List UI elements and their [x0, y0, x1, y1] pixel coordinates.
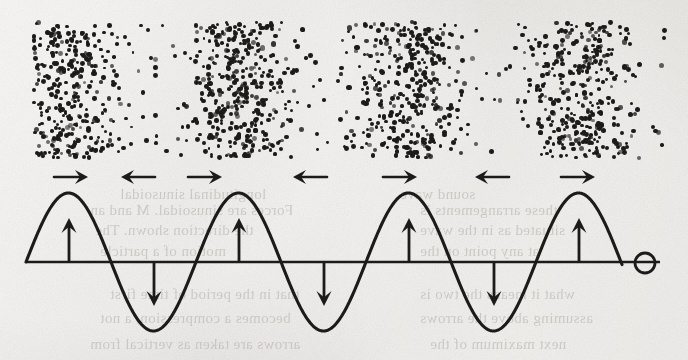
particle-dot [208, 112, 213, 117]
particle-dot [33, 51, 38, 56]
particle-dot [593, 37, 597, 41]
particle-dot [226, 56, 229, 59]
particle-dot [244, 91, 249, 96]
particle-dot [232, 152, 237, 157]
particle-dot [240, 84, 244, 88]
particle-dot [233, 100, 236, 103]
paper-texture [0, 0, 688, 360]
particle-dot [591, 22, 594, 25]
particle-dot [583, 116, 588, 121]
particle-dot [421, 72, 425, 76]
particle-dot [544, 108, 547, 111]
particle-dot [402, 145, 406, 149]
particle-dot [112, 120, 115, 123]
particle-dot [41, 155, 44, 158]
particle-dot [94, 141, 98, 145]
particle-dot [227, 67, 231, 71]
particle-dot [409, 62, 414, 67]
particle-dot [565, 34, 570, 39]
particle-dot [43, 75, 46, 78]
particle-dot [459, 151, 463, 155]
particle-dot [112, 55, 116, 59]
particle-dot [475, 29, 478, 32]
particle-dot [260, 98, 265, 103]
particle-dot [540, 153, 543, 156]
particle-dot [388, 65, 392, 69]
particle-dot [231, 74, 236, 79]
particle-dot [378, 87, 383, 92]
particle-dot [286, 67, 289, 70]
particle-dot [65, 39, 69, 43]
particle-dot [210, 114, 214, 118]
particle-dot [598, 155, 601, 158]
particle-dot [594, 31, 597, 34]
particle-dot [458, 99, 462, 103]
particle-dot [350, 140, 353, 143]
particle-dot [288, 118, 293, 123]
particle-dot [614, 141, 619, 146]
particle-dot [394, 145, 399, 150]
particle-dot [66, 31, 71, 36]
particle-dot [59, 70, 64, 75]
particle-dot [590, 136, 593, 139]
particle-dot [431, 46, 434, 49]
particle-dot [584, 55, 589, 60]
particle-dot [435, 96, 439, 100]
particle-dot [209, 89, 213, 93]
particle-dot [217, 155, 222, 160]
particle-dot [556, 98, 561, 103]
particle-dot [399, 138, 402, 141]
particle-dot [418, 68, 422, 72]
particle-dot [240, 30, 244, 34]
particle-dot [207, 77, 211, 81]
particle-dot [383, 37, 386, 40]
particle-dot [93, 148, 98, 153]
particle-dot [366, 86, 370, 90]
particle-dot [376, 60, 380, 64]
particle-dot [61, 66, 64, 69]
particle-dot [475, 87, 478, 90]
particle-dot [243, 82, 247, 86]
particle-dot [260, 74, 264, 78]
particle-dot [93, 116, 98, 121]
particle-dot [161, 24, 164, 27]
particle-dot [81, 53, 86, 58]
particle-dot [608, 20, 613, 25]
particle-dot [577, 141, 581, 145]
particle-dot [203, 149, 208, 154]
particle-dot [111, 80, 115, 84]
particle-dot [396, 38, 400, 42]
particle-dot [388, 46, 391, 49]
particle-dot [409, 30, 414, 35]
particle-dot [141, 90, 145, 94]
particle-dot [91, 71, 96, 76]
particle-dot [41, 79, 46, 84]
particle-dot [227, 75, 230, 78]
particle-dot [216, 33, 221, 38]
particle-dot [436, 42, 439, 45]
particle-dot [406, 121, 409, 124]
particle-dot [242, 146, 246, 150]
particle-dot [423, 103, 427, 107]
particle-dot [595, 71, 598, 74]
particle-dot [45, 30, 50, 35]
particle-dot [529, 45, 533, 49]
particle-dot [561, 123, 564, 126]
particle-dot [413, 21, 417, 25]
particle-dot [352, 35, 356, 39]
particle-dot [576, 121, 581, 126]
particle-dot [436, 105, 440, 109]
particle-dot [244, 89, 248, 93]
particle-dot [516, 98, 520, 102]
particle-dot [634, 75, 638, 79]
particle-dot [249, 32, 253, 36]
particle-dot [418, 79, 423, 84]
particle-dot [439, 144, 443, 148]
particle-dot [236, 134, 241, 139]
particle-dot [401, 133, 405, 137]
particle-dot [585, 60, 588, 63]
particle-dot [380, 99, 384, 103]
particle-dot [231, 37, 235, 41]
particle-dot [75, 137, 78, 140]
particle-dot [570, 117, 574, 121]
